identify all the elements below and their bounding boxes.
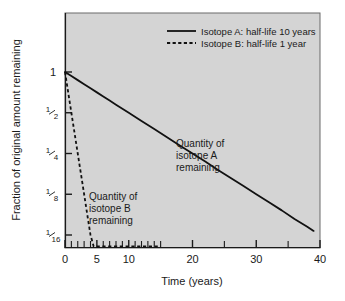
y-axis-title: Fraction of original amount remaining [10,39,22,221]
x-tick-label-40: 40 [314,253,326,265]
isotope-a-label-line-3: remaining [176,162,220,173]
isotope-b-label-line-1: Quantity of [89,191,138,202]
svg-text:1: 1 [46,146,51,155]
svg-text:8: 8 [54,194,59,203]
svg-text:16: 16 [52,235,61,244]
isotope-a-label-line-1: Quantity of [176,138,225,149]
isotope-b-label-line-2: isotope B [89,203,131,214]
x-axis-title: Time (years) [161,275,222,287]
isotope-b-label-line-3: remaining [89,215,133,226]
x-tick-label-20: 20 [186,253,198,265]
svg-text:1: 1 [46,105,51,114]
y-tick-label-1: 1 [50,66,56,78]
legend-label-isotope-b: Isotope B: half-life 1 year [201,38,306,49]
isotope-b-region-label: Quantity of isotope B remaining [89,191,138,226]
svg-text:2: 2 [54,112,59,121]
legend-label-isotope-a: Isotope A: half-life 10 years [201,26,316,37]
x-tick-label-5: 5 [94,253,100,265]
decay-chart-svg: 1121418116 0510203040 Isotope A: half-li… [0,0,345,301]
chart-figure: 1121418116 0510203040 Isotope A: half-li… [0,0,345,301]
svg-text:4: 4 [54,153,59,162]
x-tick-label-10: 10 [123,253,135,265]
x-tick-label-0: 0 [62,253,68,265]
x-tick-label-30: 30 [250,253,262,265]
svg-text:1: 1 [46,228,51,237]
isotope-a-label-line-2: isotope A [176,150,217,161]
svg-text:1: 1 [46,187,51,196]
svg-text:1: 1 [50,66,56,78]
